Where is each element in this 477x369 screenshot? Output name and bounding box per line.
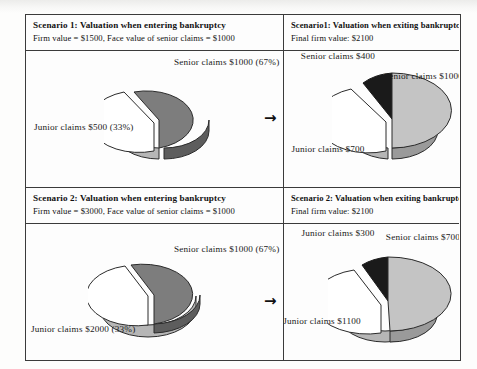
senior-claims-value: $1000 (67%) bbox=[229, 244, 279, 256]
senior-claims-value: $1000 (67%) bbox=[229, 57, 279, 69]
panel-subtitle: Final firm value: $2100 bbox=[291, 205, 453, 218]
panel-scenario2-entering: Scenario 2: Valuation when entering bank… bbox=[26, 188, 284, 360]
transition-arrow-icon: → bbox=[264, 294, 277, 309]
senior-claims-name: Senior claims bbox=[174, 57, 227, 69]
panel-header: Scenario 2: Valuation when exiting bankr… bbox=[284, 188, 459, 224]
transition-arrow-icon: → bbox=[264, 111, 277, 126]
panel-scenario2-exiting: Scenario 2: Valuation when exiting bankr… bbox=[284, 188, 459, 360]
senior-claims-light-name: Senior claims bbox=[384, 71, 437, 83]
senior-claims-black-value: $400 bbox=[356, 51, 375, 63]
table-row: Scenario 1: Valuation when entering bank… bbox=[26, 15, 460, 188]
pie-chart-scenario2-exiting bbox=[328, 246, 453, 354]
figure-page: Scenario 1: Valuation when entering bank… bbox=[0, 0, 477, 369]
junior-claims-name: Junior claims bbox=[34, 122, 86, 134]
senior-claims-light-value: $1000 bbox=[439, 71, 459, 83]
senior-claims-light-label: Senior claims $1000 bbox=[384, 71, 459, 83]
panel-header: Scenario 2: Valuation when entering bank… bbox=[26, 188, 283, 224]
senior-claims-black-name: Senior claims bbox=[301, 51, 354, 63]
panel-title: Scenario 2: Valuation when exiting bankr… bbox=[291, 192, 453, 205]
junior-claims-value: $2000 (33%) bbox=[85, 324, 135, 336]
panel-body: Senior claims $1000 (67%) Junior claims … bbox=[26, 224, 283, 360]
junior-claims-black-value: $300 bbox=[356, 228, 375, 240]
junior-claims-white-label: Junior claims $1100 bbox=[284, 316, 362, 328]
panel-subtitle: Firm value = $3000, Face value of senior… bbox=[33, 205, 277, 218]
panel-title: Scenario1: Valuation when exiting bankru… bbox=[291, 19, 453, 32]
panel-body: Senior claims $1000 (67%) Junior claims … bbox=[26, 51, 283, 187]
senior-claims-label: Senior claims $1000 (67%) bbox=[174, 57, 269, 69]
junior-claims-label: Junior claims $2000 (33%) bbox=[31, 324, 135, 336]
junior-claims-black-name: Junior claims bbox=[301, 228, 353, 240]
junior-claims-white-value: $1100 bbox=[337, 316, 361, 328]
panel-title: Scenario 2: Valuation when entering bank… bbox=[33, 192, 277, 205]
panel-subtitle: Firm value = $1500, Face value of senior… bbox=[33, 32, 277, 45]
junior-claims-black-label: Junior claims $300 bbox=[298, 228, 378, 240]
senior-claims-name: Senior claims bbox=[174, 244, 227, 256]
junior-claims-name: Junior claims bbox=[31, 324, 83, 336]
senior-claims-value: $700 bbox=[441, 232, 459, 244]
panel-scenario1-entering: Scenario 1: Valuation when entering bank… bbox=[26, 15, 284, 187]
junior-claims-label: Junior claims $500 (33%) bbox=[34, 122, 134, 134]
senior-claims-label: Senior claims $700 bbox=[384, 232, 459, 244]
table-row: Scenario 2: Valuation when entering bank… bbox=[26, 188, 460, 360]
scan-artifact bbox=[0, 0, 477, 13]
junior-claims-name: Junior claims bbox=[291, 144, 343, 156]
panel-scenario1-exiting: Scenario1: Valuation when exiting bankru… bbox=[284, 15, 459, 187]
scenario-comparison-table: Scenario 1: Valuation when entering bank… bbox=[25, 14, 461, 361]
panel-body: Senior claims $400 Senior claims $1000 J… bbox=[284, 51, 459, 187]
junior-claims-white-name: Junior claims bbox=[284, 316, 335, 328]
panel-header: Scenario 1: Valuation when entering bank… bbox=[26, 15, 283, 51]
pie-chart-scenario1-entering bbox=[104, 65, 214, 169]
junior-claims-value: $700 bbox=[346, 144, 365, 156]
senior-claims-name: Senior claims bbox=[386, 232, 439, 244]
panel-subtitle: Final firm value: $2100 bbox=[291, 32, 453, 45]
senior-claims-black-label: Senior claims $400 bbox=[296, 51, 380, 63]
panel-title: Scenario 1: Valuation when entering bank… bbox=[33, 19, 277, 32]
senior-claims-label: Senior claims $1000 (67%) bbox=[174, 244, 269, 256]
panel-header: Scenario1: Valuation when exiting bankru… bbox=[284, 15, 459, 51]
junior-claims-label: Junior claims $700 bbox=[288, 144, 368, 156]
junior-claims-value: $500 (33%) bbox=[88, 122, 133, 134]
panel-body: Junior claims $300 Senior claims $700 Ju… bbox=[284, 224, 459, 360]
